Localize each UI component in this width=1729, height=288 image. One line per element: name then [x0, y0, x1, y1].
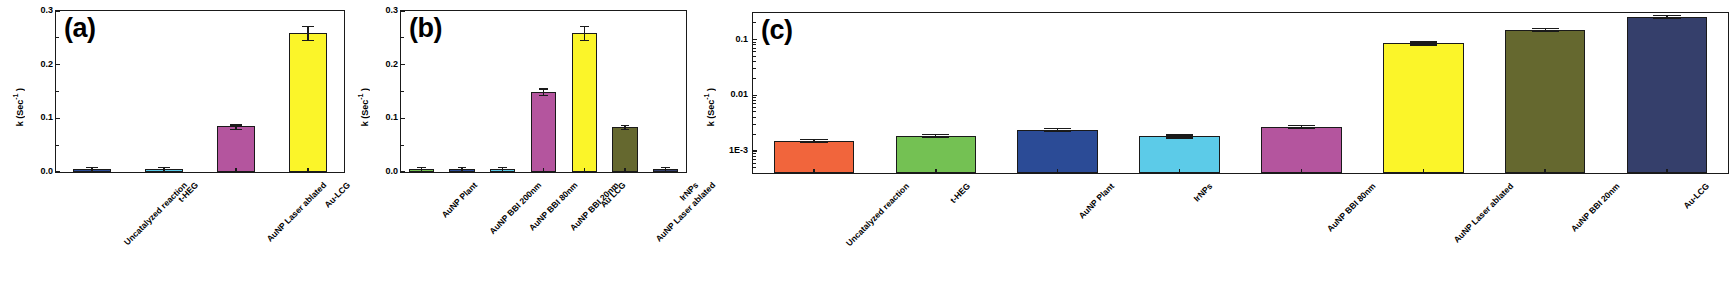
panel-c-x-tick-mark — [1666, 169, 1667, 173]
bar — [1627, 17, 1707, 173]
panel-c-y-tick-labels: 1E-30.010.1 — [711, 0, 748, 288]
panel-c-y-minor-tick — [753, 51, 756, 52]
x-axis-category-label: AuNP Laser ablated — [264, 180, 328, 244]
x-axis-category-label-text: IrNPs — [1191, 181, 1214, 204]
panel-a-x-tick-mark — [307, 168, 308, 172]
bar — [1139, 136, 1219, 173]
panel-c-y-minor-tick — [753, 68, 756, 69]
panel-b-y-tick-labels: 0.00.10.20.3 — [365, 0, 398, 288]
error-bar-cap — [302, 40, 315, 41]
error-bar-cap — [539, 88, 548, 89]
x-axis-category-label-text: AuNP BBI 20nm — [1569, 181, 1622, 234]
error-bar-cap — [1410, 41, 1437, 42]
panel-a-y-axis-title-exp: -1 — [12, 94, 19, 100]
panel-a-y-tick-label: 0.1 — [40, 112, 53, 122]
panel-c-x-tick-mark — [1544, 169, 1545, 173]
panel-a-x-tick-mark — [235, 168, 236, 172]
panel-c-y-tick-label: 0.1 — [735, 34, 748, 44]
panel-c-plot-area: (c) — [752, 12, 1729, 174]
panel-b-y-tick-mark — [401, 64, 405, 65]
error-bar-cap — [922, 137, 949, 138]
error-bar-cap — [1532, 28, 1559, 29]
error-bar-cap — [539, 95, 548, 96]
panel-a-y-tick-label: 0.3 — [40, 5, 53, 15]
panel-b-x-tick-mark — [584, 168, 585, 172]
x-axis-category-label: AuNP Plant — [440, 180, 480, 220]
panel-c-y-minor-tick — [753, 134, 756, 135]
panel-c-x-tick-mark — [1179, 169, 1180, 173]
panel-b-plot-area: (b) — [400, 10, 687, 173]
panel-c-y-minor-tick — [753, 153, 756, 154]
x-axis-category-label: t-HEG — [948, 181, 972, 205]
bar — [572, 33, 597, 172]
panel-b-y-tick-label: 0.0 — [385, 166, 398, 176]
panel-b-y-tick-label: 0.1 — [385, 112, 398, 122]
bar — [612, 127, 637, 172]
x-axis-category-label-text: t-HEG — [948, 181, 972, 205]
bar — [289, 33, 326, 172]
error-bar-cap — [580, 40, 589, 41]
panel-c-x-tick-mark — [813, 169, 814, 173]
error-bar-cap — [1044, 128, 1071, 129]
panel-c-y-minor-tick — [753, 111, 756, 112]
error-bar-cap — [580, 26, 589, 27]
panel-c-x-tick-labels: Uncatalyzed reactiont-HEGAuNP PlantIrNPs… — [752, 179, 1042, 288]
panel-a-x-tick-mark — [163, 168, 164, 172]
panel-c-x-tick-mark — [1057, 169, 1058, 173]
panel-c-y-minor-tick — [753, 163, 756, 164]
x-axis-category-label: Uncatalyzed reaction — [122, 180, 189, 247]
x-axis-category-label: AuNP BBI 80nm — [1325, 181, 1378, 234]
x-axis-category-label-text: Uncatalyzed reaction — [844, 181, 911, 248]
panel-a-y-tick-label: 0.0 — [40, 166, 53, 176]
bar — [1261, 127, 1341, 173]
x-axis-category-label-text: Uncatalyzed reaction — [122, 180, 189, 247]
panel-c-y-minor-tick — [753, 61, 756, 62]
error-bar — [584, 26, 585, 40]
error-bar-cap — [621, 129, 630, 130]
panel-a: k (Sec-1 ) 0.00.10.20.3 (a) Uncatalyzed … — [0, 0, 350, 288]
panel-c-x-tick-mark — [1301, 169, 1302, 173]
error-bar-cap — [800, 139, 827, 140]
x-axis-category-label-text: AuNP Laser ablated — [1452, 181, 1516, 245]
panel-a-bars — [56, 11, 344, 172]
panel-a-x-tick-mark — [91, 168, 92, 172]
panel-c-x-tick-mark — [1423, 169, 1424, 173]
panel-c-y-tick-label: 0.01 — [730, 89, 748, 99]
panel-b-x-tick-mark — [543, 168, 544, 172]
panel-b-y-tick-label: 0.2 — [385, 59, 398, 69]
panel-a-y-minor-tick — [56, 91, 59, 92]
x-axis-category-label-text: AuNP Plant — [440, 180, 480, 220]
bar — [531, 92, 556, 173]
panel-b-x-tick-mark — [421, 168, 422, 172]
error-bar-cap — [1044, 131, 1071, 132]
x-axis-category-label: AuNP Laser ablated — [1452, 181, 1516, 245]
panel-b-y-tick-mark — [401, 118, 405, 119]
panel-a-y-minor-tick — [56, 145, 59, 146]
panel-c-y-minor-tick — [753, 22, 756, 23]
panel-a-y-minor-tick — [56, 37, 59, 38]
panel-a-plot-area: (a) — [55, 10, 345, 173]
error-bar-cap — [1410, 44, 1437, 45]
panel-c-y-minor-tick — [753, 42, 756, 43]
panel-c-bars — [753, 13, 1728, 173]
panel-b-x-tick-labels: AuNP PlantAuNP BBI 200nmAuNP BBI 80nmAuN… — [400, 178, 687, 288]
error-bar-cap — [800, 142, 827, 143]
error-bar-cap — [1653, 18, 1680, 19]
error-bar-cap — [1288, 128, 1315, 129]
panel-c-y-minor-tick — [753, 159, 756, 160]
x-axis-category-label: Uncatalyzed reaction — [844, 181, 911, 248]
panel-c-y-minor-tick — [753, 156, 756, 157]
error-bar-cap — [1532, 31, 1559, 32]
panel-c-y-axis-title-exp: -1 — [703, 94, 710, 100]
error-bar — [307, 26, 308, 40]
error-bar-cap — [621, 125, 630, 126]
panel-a-x-tick-labels: Uncatalyzed reactiont-HEGAuNP Laser abla… — [55, 178, 345, 288]
panel-c-y-minor-tick — [753, 44, 756, 45]
panel-a-y-tick-mark — [56, 64, 60, 65]
panel-b-y-minor-tick — [401, 91, 404, 92]
error-bar-cap — [1653, 15, 1680, 16]
x-axis-category-label: Au-LCG — [322, 180, 352, 210]
error-bar-cap — [1288, 125, 1315, 126]
panel-b-y-axis-title-exp: -1 — [357, 94, 364, 100]
x-axis-category-label: AuNP Plant — [1076, 181, 1116, 221]
